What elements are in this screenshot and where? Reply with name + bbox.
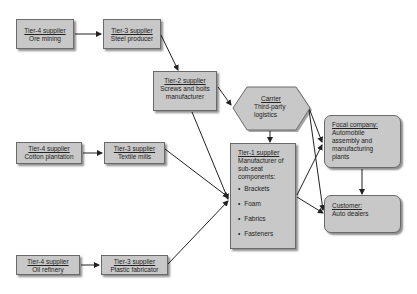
node-title: Tier-3 supplier [107, 145, 162, 153]
node-title: Tier-4 supplier [19, 258, 77, 266]
component-item: Foam [238, 200, 289, 208]
node-title: Tier-3 supplier [106, 27, 158, 35]
component-item: Fabrics [238, 215, 289, 223]
arrow-plastic-to-tier1 [168, 201, 228, 264]
arrow-screws-to-carrier [218, 87, 231, 105]
node-desc: Manufacturer of sub-seat components: [238, 157, 289, 181]
node-focal-company: Focal company: Automobile assembly and m… [324, 115, 401, 168]
component-list: Brackets Foam Fabrics Fasteners [238, 185, 289, 238]
node-steel-producer: Tier-3 supplier Steel producer [103, 19, 161, 49]
node-desc: Cotton plantation [19, 153, 79, 161]
node-cotton-plantation: Tier-4 supplier Cotton plantation [16, 142, 82, 164]
arrow-textile-to-tier1 [165, 149, 228, 197]
component-item: Brackets [238, 185, 289, 193]
node-oil-refinery: Tier-4 supplier Oil refinery [16, 255, 80, 275]
node-desc: Oil refinery [19, 266, 77, 274]
node-title: Tier-1 supplier [238, 149, 289, 157]
node-title: Focal company: [332, 121, 394, 129]
node-customer: Customer: Auto dealers [324, 195, 401, 233]
node-desc: Automobile assembly and manufacturing pl… [332, 129, 388, 161]
node-textile-mills: Tier-3 supplier Textile mills [104, 142, 165, 164]
node-desc: Textile mills [107, 153, 162, 161]
node-desc: Screws and bolts manufacturer [156, 85, 214, 101]
node-ore-mining: Tier-4 supplier Ore mining [16, 19, 74, 49]
arrow-steel-to-screws [161, 35, 178, 70]
arrow-screws-to-tier1 [192, 112, 228, 199]
node-plastic-fabricator: Tier-3 supplier Plastic fabricator [101, 255, 168, 275]
node-screws-bolts: Tier-2 supplier Screws and bolts manufac… [153, 71, 217, 111]
arrow-tier1-to-customer [297, 197, 323, 213]
node-tier1-supplier: Tier-1 supplier Manufacturer of sub-seat… [230, 143, 296, 249]
node-title: Tier-2 supplier [156, 77, 214, 85]
node-title: Tier-3 supplier [104, 258, 165, 266]
node-desc: Plastic fabricator [104, 266, 165, 274]
node-title: Carrier [232, 95, 310, 103]
node-title: Tier-4 supplier [19, 27, 71, 35]
node-desc: Third-party logistics [254, 103, 288, 119]
node-carrier: Carrier Third-party logistics [232, 86, 310, 130]
arrow-tier1-to-focal [297, 145, 322, 195]
node-title: Customer: [332, 202, 394, 210]
node-desc: Auto dealers [332, 210, 394, 218]
node-desc: Steel producer [106, 35, 158, 43]
component-item: Fasteners [238, 230, 289, 238]
node-desc: Ore mining [19, 35, 71, 43]
node-title: Tier-4 supplier [19, 145, 79, 153]
